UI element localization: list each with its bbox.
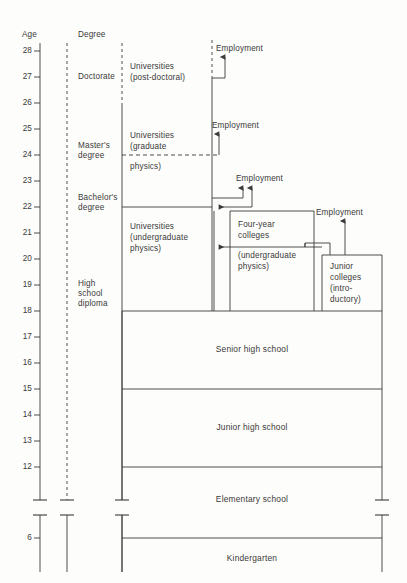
junior-high-school-label: Junior high school [122,422,382,432]
employment-arrows-undergraduate [212,188,252,207]
elementary-school-label: Elementary school [122,494,382,504]
universities-graduate-line2: (graduate [130,142,166,152]
four-year-colleges-line4: physics) [238,262,269,272]
four-year-colleges-line3: (undergraduate [238,251,296,261]
junior-colleges-line1: Junior [330,262,353,272]
degree-label-high-school-line3: diploma [78,299,108,309]
junior-colleges-line2: colleges [330,273,361,283]
age-tick-25: 25 [14,124,32,133]
degree-label-bachelors-line1: Bachelor's [78,193,117,203]
age-tick-13: 13 [14,436,32,445]
age-tick-24: 24 [14,150,32,159]
degree-label-high-school-line1: High [78,279,95,289]
universities-undergraduate-line1: Universities [130,222,174,232]
age-tick-22: 22 [14,202,32,211]
universities-graduate-line1: Universities [130,131,174,141]
age-tick-20: 20 [14,254,32,263]
junior-college-transfer-path [305,243,330,255]
employment-label-graduate: Employment [212,121,259,131]
employment-label-junior-college: Employment [316,208,363,218]
kindergarten-label: Kindergarten [122,553,382,563]
age-tick-27: 27 [14,72,32,81]
universities-post-doctoral-line2: (post-doctoral) [130,73,185,83]
axis-divider-rule [60,43,74,572]
age-axis-header: Age [22,30,37,39]
degree-label-doctorate: Doctorate [78,72,115,82]
age-tick-26: 26 [14,98,32,107]
degree-column-header: Degree [78,30,105,39]
employment-arrow-post-doctoral [212,57,225,78]
junior-colleges-line3: (intro- [330,284,352,294]
education-pathway-diagram: Age Degree 28 27 26 25 24 23 22 21 20 19… [0,0,407,583]
degree-label-high-school-line2: school [78,289,103,299]
junior-colleges-line4: ductory) [330,295,361,305]
age-tick-17: 17 [14,332,32,341]
universities-graduate-line3: physics) [130,162,161,172]
four-year-colleges-line2: colleges [238,231,269,241]
degree-label-masters-line1: Master's [78,141,110,151]
employment-label-undergraduate: Employment [236,174,283,184]
degree-label-masters-line2: degree [78,151,104,161]
universities-post-doctoral-line1: Universities [130,62,174,72]
age-tick-6: 6 [14,533,32,542]
universities-undergraduate-line2: (undergraduate [130,233,188,243]
degree-label-bachelors-line2: degree [78,203,104,213]
age-tick-18: 18 [14,306,32,315]
age-tick-14: 14 [14,410,32,419]
age-tick-19: 19 [14,280,32,289]
age-tick-21: 21 [14,228,32,237]
age-tick-28: 28 [14,46,32,55]
universities-undergraduate-line3: physics) [130,244,161,254]
age-tick-12: 12 [14,462,32,471]
age-axis [33,43,47,572]
four-year-colleges-line1: Four-year [238,220,275,230]
age-tick-16: 16 [14,358,32,367]
age-tick-23: 23 [14,176,32,185]
senior-high-school-label: Senior high school [122,344,382,354]
age-tick-15: 15 [14,384,32,393]
employment-label-post-doctoral: Employment [216,44,263,54]
